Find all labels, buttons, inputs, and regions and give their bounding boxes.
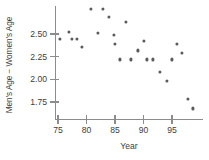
y-axis-line (55, 6, 56, 120)
x-tick-label: 80 (82, 125, 92, 135)
data-point (75, 37, 78, 40)
y-tick-label: 1.75 (30, 97, 47, 107)
data-point (59, 37, 62, 40)
data-point (151, 58, 154, 61)
data-point (71, 37, 74, 40)
data-point (176, 42, 179, 45)
y-tick-label: 2.00 (30, 74, 47, 84)
x-tick-label: 95 (167, 125, 177, 135)
y-tick-2.25: 2.25 (50, 56, 59, 57)
x-axis-line (55, 119, 203, 120)
data-point (170, 58, 173, 61)
y-tick-2.00: 2.00 (50, 79, 59, 80)
y-tick-2.50: 2.50 (50, 33, 59, 34)
data-point (112, 33, 115, 36)
data-point (191, 107, 194, 110)
data-point (101, 7, 104, 10)
x-tick-label: 85 (110, 125, 120, 135)
data-point (80, 45, 83, 48)
x-tick-90: 90 (143, 115, 144, 124)
data-point (107, 15, 110, 18)
data-point (96, 31, 99, 34)
x-tick-80: 80 (86, 115, 87, 124)
x-tick-label: 75 (53, 125, 63, 135)
data-point (181, 51, 184, 54)
data-point (129, 58, 132, 61)
x-axis-title: Year (55, 141, 203, 151)
y-axis-title: Men's Age − Women's Age (2, 0, 16, 130)
data-point (113, 42, 116, 45)
data-point (136, 49, 139, 52)
x-tick-85: 85 (114, 115, 115, 124)
data-point (67, 31, 70, 34)
data-point (186, 98, 189, 101)
data-point (165, 80, 168, 83)
data-point (158, 70, 161, 73)
data-point (142, 40, 145, 43)
data-point (89, 7, 92, 10)
y-tick-label: 2.50 (30, 29, 47, 39)
y-tick-label: 2.25 (30, 52, 47, 62)
scatter-plot-figure: Men's Age − Women's Age 2.502.252.001.75… (0, 0, 209, 160)
data-point (124, 21, 127, 24)
y-tick-1.75: 1.75 (50, 101, 59, 102)
x-tick-75: 75 (57, 115, 58, 124)
x-tick-95: 95 (171, 115, 172, 124)
data-point (119, 58, 122, 61)
data-point (145, 58, 148, 61)
x-tick-label: 90 (139, 125, 149, 135)
